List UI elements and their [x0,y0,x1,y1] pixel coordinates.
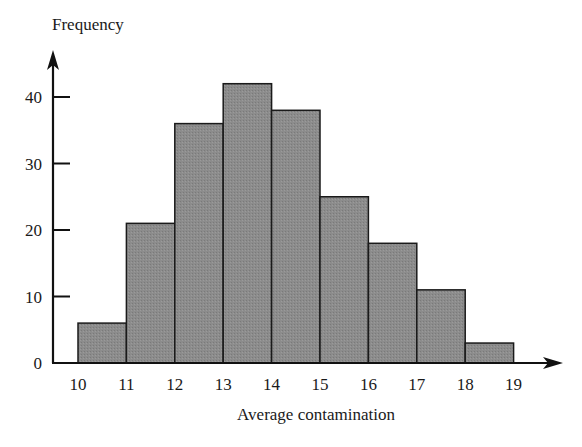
histogram-bar [368,243,416,363]
x-tick-label: 14 [263,375,281,394]
y-tick-label: 20 [25,221,42,240]
y-tick-label: 30 [25,155,42,174]
x-axis-label: Average contamination [237,405,395,424]
x-tick-label: 13 [215,375,232,394]
histogram-bar [78,323,126,363]
histogram-bar [223,84,271,363]
histogram-bar [417,290,465,363]
histogram-bar [465,343,513,363]
histogram-bars [78,84,514,363]
histogram-chart: 010203040 10111213141516171819 Frequency… [0,0,582,447]
y-axis-label: Frequency [52,15,124,34]
x-tick-label: 17 [408,375,426,394]
y-tick-label: 0 [34,354,43,373]
x-tick-label: 15 [312,375,329,394]
x-tick-label: 11 [118,375,134,394]
x-tick-label: 18 [457,375,474,394]
y-tick-label: 10 [25,288,42,307]
x-tick-label: 10 [70,375,87,394]
histogram-bar [272,110,320,363]
histogram-bar [320,197,368,363]
x-axis-ticks: 10111213141516171819 [70,375,523,394]
histogram-bar [175,124,223,363]
histogram-bar [126,223,174,363]
x-tick-label: 12 [166,375,183,394]
x-tick-label: 19 [505,375,522,394]
y-tick-label: 40 [25,88,42,107]
x-tick-label: 16 [360,375,377,394]
y-axis-ticks: 010203040 [25,88,70,373]
